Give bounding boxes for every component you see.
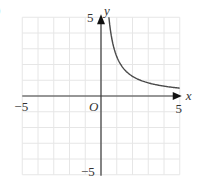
y-axis-label: y <box>102 3 110 18</box>
y-tick-label-min: −5 <box>81 164 95 179</box>
x-axis-label: x <box>185 88 192 103</box>
x-axis-arrow-icon <box>173 92 182 100</box>
curve-series <box>109 17 180 88</box>
origin-label: O <box>89 99 99 114</box>
hyperbola-chart: x y O −5 5 5 −5 <box>0 0 199 187</box>
y-tick-label-max: 5 <box>87 10 94 25</box>
axes <box>22 14 182 176</box>
x-tick-label-min: −5 <box>14 99 28 114</box>
x-tick-label-max: 5 <box>176 101 183 116</box>
